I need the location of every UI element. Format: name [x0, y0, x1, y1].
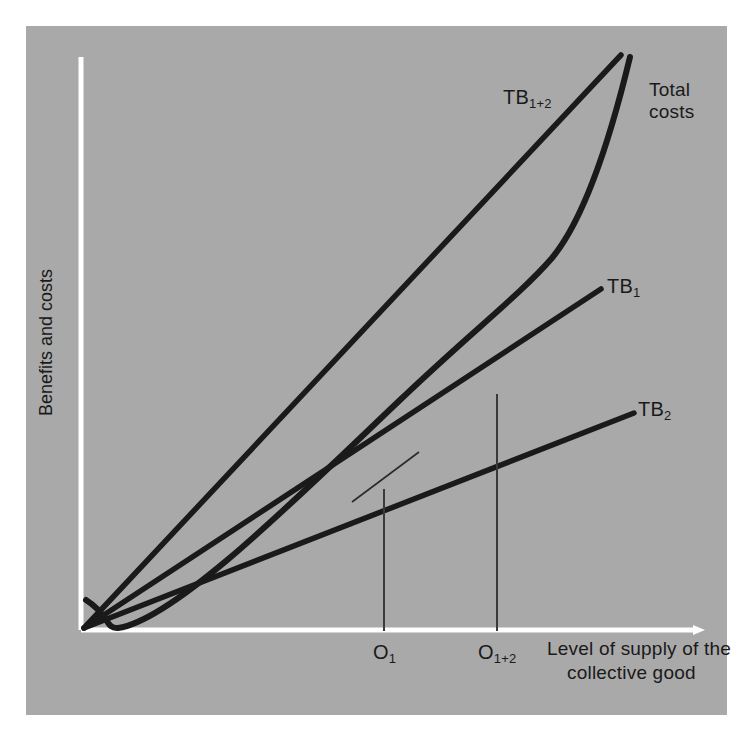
- x-axis-label-line1: Level of supply of the: [547, 638, 731, 659]
- o1-base: O: [373, 641, 389, 663]
- tb2-base: TB: [638, 398, 664, 420]
- tb1-subscript: 1: [633, 285, 640, 300]
- tangent-hint-segment: [352, 452, 419, 502]
- x-axis-label-line2: collective good: [567, 661, 731, 685]
- y-axis-label: Benefits and costs: [36, 253, 57, 433]
- total-costs-line2: costs: [649, 101, 694, 122]
- o1plus2-base: O: [478, 641, 494, 663]
- tick-label-o1plus2: O1+2: [478, 641, 516, 664]
- tb1plus2-subscript: 1+2: [529, 96, 552, 111]
- curve-label-total-costs: Total costs: [649, 79, 694, 123]
- curve-label-tb1plus2: TB1+2: [503, 86, 552, 109]
- tick-label-o1: O1: [373, 641, 396, 664]
- o1-subscript: 1: [389, 651, 396, 666]
- tb1-base: TB: [607, 275, 633, 297]
- tb1plus2-base: TB: [503, 86, 529, 108]
- curve-tb1plus2: [84, 55, 621, 628]
- tb2-subscript: 2: [664, 408, 671, 423]
- curve-label-tb1: TB1: [607, 275, 640, 298]
- x-axis-label: Level of supply of the collective good: [547, 637, 731, 685]
- o1plus2-subscript: 1+2: [494, 651, 517, 666]
- curve-label-tb2: TB2: [638, 398, 671, 421]
- figure-root: Benefits and costs TB1+2 Total costs TB1…: [0, 0, 751, 742]
- total-costs-line1: Total: [649, 79, 690, 100]
- chart-canvas: [0, 0, 751, 742]
